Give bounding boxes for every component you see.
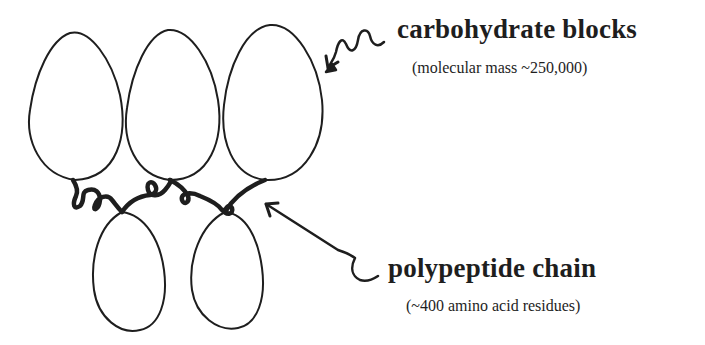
carbohydrate-block-1 [29, 32, 122, 180]
carbohydrate-block-4 [93, 212, 165, 331]
carbohydrate-block-5 [191, 212, 263, 329]
carbohydrate-block-2 [126, 30, 219, 180]
proteoglycan-diagram [0, 0, 705, 345]
polypeptide-chain-subtitle: (~400 amino acid residues) [406, 297, 580, 315]
polypeptide-chain-label: polypeptide chain [388, 253, 596, 284]
carbohydrate-blocks-subtitle: (molecular mass ~250,000) [412, 59, 587, 77]
carbohydrate-block-3 [223, 25, 322, 180]
polypeptide-arrow [266, 203, 378, 281]
polypeptide-chain [73, 180, 265, 214]
carbohydrate-arrow [326, 30, 384, 72]
carbohydrate-blocks-label: carbohydrate blocks [397, 14, 637, 45]
